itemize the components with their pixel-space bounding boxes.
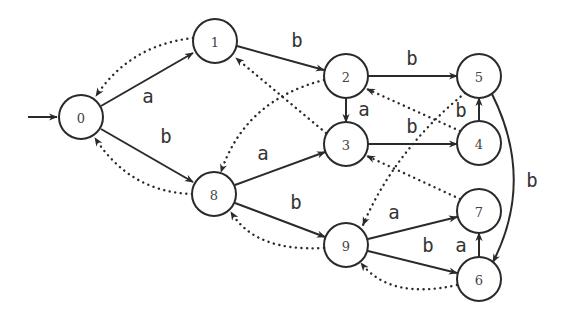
state-6: 6 bbox=[457, 257, 501, 301]
failure-link-6-9 bbox=[361, 263, 457, 289]
failure-link-3-1 bbox=[236, 58, 326, 133]
state-label: 2 bbox=[342, 70, 350, 85]
state-label: 6 bbox=[475, 273, 483, 288]
state-3: 3 bbox=[324, 122, 368, 166]
state-nodes: 0 1 2 3 4 5 6 7 bbox=[59, 19, 501, 301]
label-3-4: b bbox=[406, 115, 417, 137]
transition-9-6 bbox=[368, 251, 457, 273]
state-7: 7 bbox=[457, 189, 501, 233]
state-0: 0 bbox=[59, 95, 103, 139]
failure-link-7-3 bbox=[367, 156, 460, 199]
failure-link-8-0 bbox=[95, 138, 192, 194]
failure-link-5-9 bbox=[363, 93, 465, 225]
label-9-6: b bbox=[422, 234, 433, 256]
label-6-7: a bbox=[455, 234, 466, 256]
state-label: 3 bbox=[342, 138, 350, 153]
failure-link-9-8 bbox=[231, 212, 324, 248]
label-2-3: a bbox=[358, 98, 369, 120]
transition-1-2 bbox=[237, 46, 324, 70]
label-0-1: a bbox=[142, 85, 153, 107]
label-1-2: b bbox=[291, 29, 302, 51]
label-8-9: b bbox=[290, 191, 301, 213]
state-4: 4 bbox=[457, 121, 501, 165]
transition-8-3 bbox=[235, 152, 325, 185]
state-label: 7 bbox=[475, 205, 483, 220]
transition-0-8 bbox=[101, 129, 193, 182]
automaton-diagram: a b b b a b b b a b a b a 0 1 2 3 bbox=[0, 0, 563, 317]
label-0-8: b bbox=[160, 125, 171, 147]
state-label: 9 bbox=[342, 239, 350, 254]
transition-9-7 bbox=[368, 217, 457, 239]
state-5: 5 bbox=[457, 54, 501, 98]
label-4-5: b bbox=[455, 99, 466, 121]
label-8-3: a bbox=[257, 142, 268, 164]
state-9: 9 bbox=[324, 223, 368, 267]
state-label: 1 bbox=[211, 35, 219, 50]
transitions bbox=[101, 46, 514, 273]
label-2-5: b bbox=[406, 47, 417, 69]
label-9-7: a bbox=[388, 201, 399, 223]
state-label: 0 bbox=[77, 111, 85, 126]
state-8: 8 bbox=[192, 172, 236, 216]
state-label: 4 bbox=[475, 137, 483, 152]
state-label: 5 bbox=[475, 70, 483, 85]
label-5-6: b bbox=[526, 169, 537, 191]
transition-5-6 bbox=[492, 94, 514, 262]
state-label: 8 bbox=[210, 188, 218, 203]
state-1: 1 bbox=[193, 19, 237, 63]
state-2: 2 bbox=[324, 54, 368, 98]
